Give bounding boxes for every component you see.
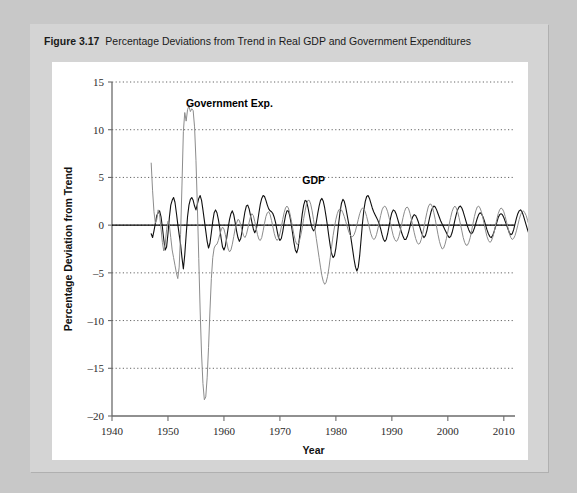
y-tick-label: 15 bbox=[93, 76, 105, 88]
figure-panel: Figure 3.17 Percentage Deviations from T… bbox=[30, 24, 548, 472]
chart-svg: 19401950196019701980199020002010 –20–15–… bbox=[52, 62, 528, 460]
series-line-government-exp bbox=[151, 106, 528, 400]
x-axis-title: Year bbox=[302, 444, 324, 456]
series-annotation: GDP bbox=[302, 174, 325, 186]
series-annotation: Government Exp. bbox=[186, 97, 273, 109]
y-tick-label: 5 bbox=[99, 171, 105, 183]
x-tick-label: 1950 bbox=[157, 425, 180, 437]
y-tick-label: –20 bbox=[87, 410, 105, 422]
y-axis-title: Percentage Deviation from Trend bbox=[62, 167, 74, 332]
figure-caption-text: Percentage Deviations from Trend in Real… bbox=[105, 35, 471, 47]
x-tick-label: 1980 bbox=[325, 425, 348, 437]
plot-panel: 19401950196019701980199020002010 –20–15–… bbox=[52, 62, 528, 460]
y-tick-label: 10 bbox=[93, 124, 105, 136]
x-tick-label: 1960 bbox=[213, 425, 236, 437]
series-lines bbox=[151, 106, 528, 400]
x-tick-label: 1940 bbox=[101, 425, 124, 437]
y-tick-label: 0 bbox=[99, 219, 105, 231]
figure-label: Figure 3.17 bbox=[44, 35, 99, 47]
y-tick-label: –5 bbox=[92, 267, 105, 279]
y-ticks: –20–15–10–5051015 bbox=[87, 76, 113, 422]
x-ticks: 19401950196019701980199020002010 bbox=[101, 416, 515, 437]
y-tick-label: –15 bbox=[87, 362, 105, 374]
figure-caption: Figure 3.17 Percentage Deviations from T… bbox=[44, 35, 539, 47]
y-tick-label: –10 bbox=[87, 315, 105, 327]
series-annotations: Government Exp.GDP bbox=[186, 97, 325, 186]
x-tick-label: 1990 bbox=[381, 425, 404, 437]
x-tick-label: 2010 bbox=[493, 425, 516, 437]
x-tick-label: 1970 bbox=[269, 425, 292, 437]
x-tick-label: 2000 bbox=[437, 425, 460, 437]
